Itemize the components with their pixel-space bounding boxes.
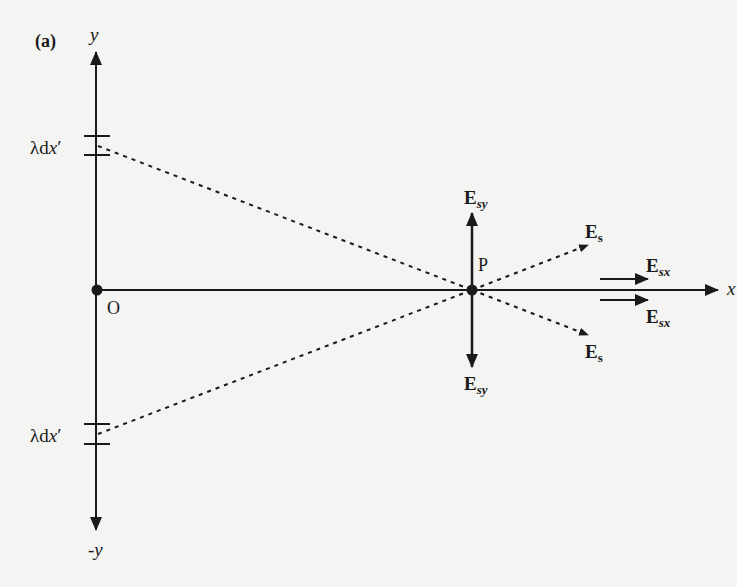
es-up-label: Es (585, 222, 603, 241)
esy-down-label: Esy (464, 374, 488, 393)
vector-subscript: s (598, 230, 603, 245)
d-symbol: d (39, 137, 49, 158)
point-p-dot (467, 285, 478, 296)
esx-up-label: Esx (646, 256, 670, 275)
upper-charge-element-label: λdx′ (30, 138, 61, 157)
lambda-symbol: λ (30, 425, 39, 446)
vector-main: E (585, 221, 598, 242)
origin-dot (92, 285, 103, 296)
vector-main: E (464, 187, 477, 208)
y-axis-label: y (90, 25, 98, 44)
point-p-label: P (478, 256, 488, 274)
prime-symbol: ′ (57, 425, 61, 446)
vector-subscript: sx (659, 315, 671, 330)
vector-main: E (646, 306, 659, 327)
dotted-line-lower-to-p (98, 290, 472, 434)
vector-subscript: s (598, 350, 603, 365)
es-vector-up (472, 245, 588, 290)
prime-symbol: ′ (57, 137, 61, 158)
dotted-line-upper-to-p (98, 146, 472, 290)
diagram-canvas (0, 0, 737, 587)
panel-label: (a) (35, 32, 56, 50)
vector-subscript: sx (659, 264, 671, 279)
vector-subscript: sy (477, 196, 488, 211)
es-down-label: Es (585, 342, 603, 361)
lambda-symbol: λ (30, 137, 39, 158)
x-symbol: x (49, 137, 57, 158)
vector-main: E (646, 255, 659, 276)
esx-down-label: Esx (646, 307, 670, 326)
es-vector-down (472, 290, 588, 335)
x-axis-label: x (727, 279, 735, 298)
vector-main: E (585, 341, 598, 362)
vector-subscript: sy (477, 382, 488, 397)
lower-charge-element-label: λdx′ (30, 426, 61, 445)
neg-y-axis-label: -y (88, 540, 103, 559)
origin-label: O (107, 299, 120, 317)
vector-main: E (464, 373, 477, 394)
esy-up-label: Esy (464, 188, 488, 207)
x-symbol: x (49, 425, 57, 446)
d-symbol: d (39, 425, 49, 446)
